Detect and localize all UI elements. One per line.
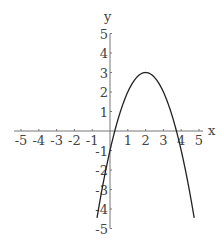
y-axis-label: y — [103, 9, 112, 24]
x-tick-label: -2 — [68, 133, 81, 148]
x-tick-label: 3 — [159, 133, 167, 148]
x-axis-label: x — [208, 123, 216, 138]
x-tick-label: -5 — [15, 133, 28, 148]
y-tick-label: -5 — [95, 222, 108, 237]
y-tick-label: 1 — [100, 105, 108, 120]
y-tick-label: 3 — [100, 66, 108, 81]
y-tick-label: -1 — [95, 144, 108, 159]
x-tick-label: -4 — [32, 133, 45, 148]
x-tick-label: 5 — [195, 133, 203, 148]
y-tick-label: 2 — [100, 85, 108, 100]
x-tick-label: 2 — [141, 133, 149, 148]
parabola-chart: -5-4-3-2-11234554321-1-2-3-4-5 x y — [0, 0, 224, 244]
axes — [14, 34, 203, 229]
y-tick-label: 5 — [100, 27, 108, 42]
x-tick-label: -3 — [50, 133, 63, 148]
y-tick-label: 4 — [100, 46, 108, 61]
x-tick-label: 1 — [124, 133, 132, 148]
